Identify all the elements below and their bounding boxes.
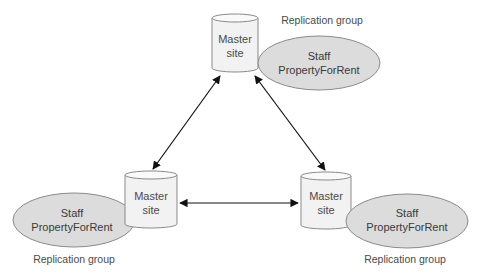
site-label-line1: Master bbox=[309, 190, 343, 202]
site-label-line2: site bbox=[226, 47, 243, 59]
edges bbox=[153, 76, 325, 203]
group-table-2: PropertyForRent bbox=[31, 221, 112, 233]
replication-group-label: Replication group bbox=[281, 14, 363, 26]
group-table-1: Staff bbox=[396, 207, 419, 219]
replication-diagram: Master site Staff PropertyForRent Replic… bbox=[0, 0, 481, 276]
group-table-2: PropertyForRent bbox=[366, 221, 447, 233]
replication-group-label: Replication group bbox=[33, 253, 115, 265]
node-bottom-left: Master site Staff PropertyForRent Replic… bbox=[13, 171, 177, 265]
site-label-line1: Master bbox=[218, 33, 252, 45]
arrow-top-to-bottom-left bbox=[153, 76, 220, 169]
node-bottom-right: Master site Staff PropertyForRent Replic… bbox=[301, 172, 468, 265]
group-table-2: PropertyForRent bbox=[278, 64, 359, 76]
group-table-1: Staff bbox=[308, 50, 331, 62]
site-label-line1: Master bbox=[134, 190, 168, 202]
site-label-line2: site bbox=[317, 204, 334, 216]
node-top: Master site Staff PropertyForRent Replic… bbox=[212, 14, 380, 90]
group-table-1: Staff bbox=[61, 207, 84, 219]
site-label-line2: site bbox=[142, 204, 159, 216]
replication-group-ellipse bbox=[258, 36, 380, 90]
replication-group-ellipse bbox=[13, 193, 135, 247]
replication-group-label: Replication group bbox=[364, 253, 446, 265]
